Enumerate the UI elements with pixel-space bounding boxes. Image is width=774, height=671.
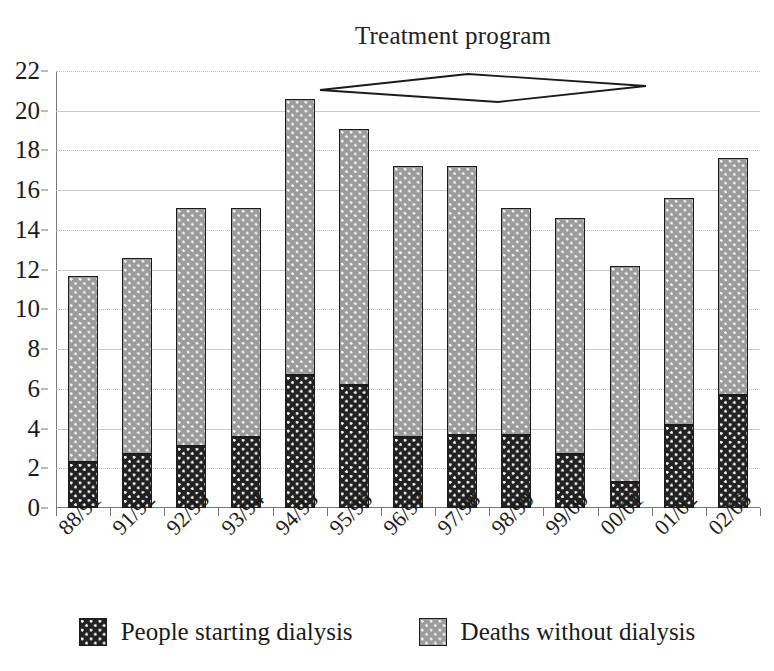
bar-segment-deaths-without-dialysis[interactable] — [447, 166, 477, 434]
grey-dotted-swatch — [419, 618, 447, 646]
bar-segment-deaths-without-dialysis[interactable] — [718, 158, 748, 394]
bar-segment-deaths-without-dialysis[interactable] — [231, 208, 261, 436]
bar-segment-deaths-without-dialysis[interactable] — [610, 266, 640, 483]
bar-segment-deaths-without-dialysis[interactable] — [285, 99, 315, 375]
stacked-bar-chart-figure: Treatment program 0246810121416182022 88… — [0, 0, 774, 671]
y-axis-tick-mark — [41, 71, 48, 72]
y-axis-tick-mark — [41, 468, 48, 469]
y-axis-tick-label: 0 — [28, 494, 41, 522]
y-axis-tick-label: 14 — [15, 216, 40, 244]
plot-area — [56, 71, 760, 508]
y-axis-tick-mark — [41, 150, 48, 151]
x-axis-tick-mark — [435, 508, 436, 516]
y-axis-tick-mark — [41, 269, 48, 270]
bar-segment-deaths-without-dialysis[interactable] — [339, 129, 369, 385]
y-axis-tick-label: 6 — [28, 375, 41, 403]
bar-segment-deaths-without-dialysis[interactable] — [664, 198, 694, 424]
bars-container — [56, 71, 760, 508]
legend-item[interactable]: People starting dialysis — [79, 618, 353, 646]
x-axis-tick-mark — [489, 508, 490, 516]
bar-segment-deaths-without-dialysis[interactable] — [393, 166, 423, 436]
y-axis-tick-label: 10 — [15, 295, 40, 323]
legend-item-label: Deaths without dialysis — [461, 618, 696, 646]
x-axis-tick-mark — [164, 508, 165, 516]
bar-segment-deaths-without-dialysis[interactable] — [176, 208, 206, 446]
x-axis-tick-mark — [543, 508, 544, 516]
x-axis-tick-mark — [598, 508, 599, 516]
treatment-program-annotation-label: Treatment program — [355, 22, 655, 50]
y-axis-tick-mark — [41, 309, 48, 310]
y-axis-tick-mark — [41, 428, 48, 429]
y-axis-tick-label: 12 — [15, 256, 40, 284]
x-axis-tick-mark — [381, 508, 382, 516]
dark-dotted-swatch — [79, 618, 107, 646]
y-axis-tick-mark — [41, 349, 48, 350]
x-axis-tick-mark — [706, 508, 707, 516]
y-axis-tick-label: 20 — [15, 97, 40, 125]
y-axis-tick-mark — [41, 110, 48, 111]
y-axis-tick-mark — [41, 388, 48, 389]
bar-segment-people-starting-dialysis[interactable] — [339, 385, 369, 508]
y-axis-tick-label: 2 — [28, 454, 41, 482]
x-axis-tick-mark — [760, 508, 761, 516]
bar-segment-people-starting-dialysis[interactable] — [285, 375, 315, 508]
y-axis: 0246810121416182022 — [0, 71, 48, 508]
chart-legend: People starting dialysisDeaths without d… — [0, 606, 774, 658]
bar-segment-deaths-without-dialysis[interactable] — [122, 258, 152, 455]
x-axis-tick-mark — [652, 508, 653, 516]
y-axis-tick-label: 16 — [15, 176, 40, 204]
bar-segment-deaths-without-dialysis[interactable] — [501, 208, 531, 434]
bar-segment-deaths-without-dialysis[interactable] — [555, 218, 585, 454]
x-axis-tick-mark — [327, 508, 328, 516]
legend-item-label: People starting dialysis — [121, 618, 353, 646]
bar-segment-deaths-without-dialysis[interactable] — [68, 276, 98, 463]
x-axis: 88/9191/9292/9393/9494/9595/9696/9797/98… — [56, 508, 760, 608]
legend-item[interactable]: Deaths without dialysis — [419, 618, 696, 646]
x-axis-tick-mark — [56, 508, 57, 516]
y-axis-tick-label: 8 — [28, 335, 41, 363]
y-axis-tick-label: 4 — [28, 415, 41, 443]
x-axis-tick-mark — [110, 508, 111, 516]
y-axis-tick-label: 18 — [15, 136, 40, 164]
x-axis-tick-mark — [273, 508, 274, 516]
y-axis-tick-mark — [41, 229, 48, 230]
y-axis-tick-mark — [41, 508, 48, 509]
y-axis-tick-mark — [41, 190, 48, 191]
x-axis-tick-mark — [218, 508, 219, 516]
y-axis-tick-label: 22 — [15, 57, 40, 85]
